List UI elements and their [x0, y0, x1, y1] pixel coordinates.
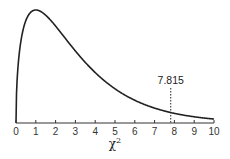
x-tick-label: 1: [33, 126, 39, 137]
x-tick-label: 4: [92, 126, 98, 137]
x-tick-label: 9: [191, 126, 197, 137]
x-tick-label: 2: [53, 126, 59, 137]
x-tick-label: 10: [208, 126, 220, 137]
density-curve: [16, 10, 214, 123]
x-axis-label: χ2: [109, 136, 121, 151]
critical-value-label: 7.815: [158, 74, 184, 86]
x-tick-label: 7: [152, 126, 158, 137]
x-tick-label: 8: [172, 126, 178, 137]
x-tick-label: 3: [73, 126, 79, 137]
x-tick-label: 6: [132, 126, 138, 137]
x-tick-label: 0: [13, 126, 19, 137]
chi-square-chart: 012345678910 7.815 χ2: [0, 0, 230, 159]
